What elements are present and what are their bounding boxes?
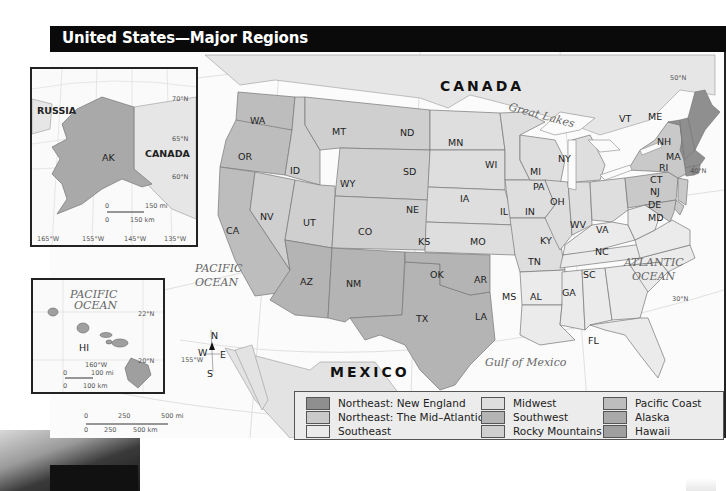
svg-text:65°N: 65°N xyxy=(172,135,189,143)
svg-text:100 mi: 100 mi xyxy=(91,369,114,377)
swatch xyxy=(306,397,330,410)
svg-text:155°W: 155°W xyxy=(82,235,105,243)
legend-item-rocky-mountains: Rocky Mountains xyxy=(481,424,602,438)
state-or[interactable] xyxy=(220,120,292,175)
svg-text:N: N xyxy=(211,330,218,341)
svg-text:135°W: 135°W xyxy=(164,235,187,243)
state-ar[interactable] xyxy=(520,270,565,305)
svg-text:MA: MA xyxy=(666,151,681,162)
svg-text:MO: MO xyxy=(470,236,486,247)
label-mexico: MEXICO xyxy=(330,364,410,380)
svg-text:OK: OK xyxy=(430,269,444,280)
svg-text:WA: WA xyxy=(250,115,266,126)
map-title: United States—Major Regions xyxy=(62,29,308,47)
state-oh[interactable] xyxy=(590,178,628,222)
svg-text:NH: NH xyxy=(657,136,671,147)
label-lat-50: 50°N xyxy=(670,74,687,82)
svg-text:UT: UT xyxy=(303,217,316,228)
legend-item-hawaii: Hawaii xyxy=(603,424,670,438)
state-fl[interactable] xyxy=(590,318,665,378)
svg-text:VA: VA xyxy=(596,224,609,235)
svg-text:CT: CT xyxy=(650,174,663,185)
svg-text:ID: ID xyxy=(290,165,300,176)
state-mt[interactable] xyxy=(305,97,430,150)
svg-text:HI: HI xyxy=(79,342,89,353)
svg-text:0: 0 xyxy=(105,202,109,210)
svg-text:E: E xyxy=(220,349,226,360)
svg-text:S: S xyxy=(207,368,213,379)
label-pacific-2: OCEAN xyxy=(195,276,238,289)
svg-text:MD: MD xyxy=(648,212,664,223)
svg-text:FL: FL xyxy=(588,335,599,346)
svg-text:0: 0 xyxy=(84,426,88,434)
svg-text:OR: OR xyxy=(238,151,252,162)
svg-text:IA: IA xyxy=(460,193,470,204)
svg-text:LA: LA xyxy=(475,311,488,322)
svg-text:AR: AR xyxy=(474,274,487,285)
label-atlantic-2: OCEAN xyxy=(632,270,675,283)
svg-text:CO: CO xyxy=(358,226,372,237)
swatch xyxy=(481,425,505,438)
legend-item-southwest: Southwest xyxy=(481,410,568,424)
svg-text:0: 0 xyxy=(84,412,88,420)
svg-text:NV: NV xyxy=(260,211,274,222)
compass-rose: N W E S 155°W xyxy=(181,330,226,379)
svg-text:150 mi: 150 mi xyxy=(145,202,168,210)
svg-text:AZ: AZ xyxy=(300,276,313,287)
state-me[interactable] xyxy=(688,90,720,150)
svg-text:22°N: 22°N xyxy=(138,310,155,318)
svg-text:WI: WI xyxy=(485,159,497,170)
svg-text:RI: RI xyxy=(659,162,668,173)
main-scale-bar: 0 250 500 mi 0 250 500 km xyxy=(84,412,184,434)
svg-text:NC: NC xyxy=(595,246,609,257)
svg-text:WY: WY xyxy=(340,178,355,189)
svg-text:OH: OH xyxy=(550,196,565,207)
state-nj[interactable] xyxy=(678,178,688,205)
svg-text:NY: NY xyxy=(558,153,571,164)
svg-text:250: 250 xyxy=(118,412,130,420)
label-pacific-1: PACIFIC xyxy=(194,262,243,275)
svg-text:NE: NE xyxy=(406,204,419,215)
photo-fragment xyxy=(686,478,716,491)
legend-item-pacific-coast: Pacific Coast xyxy=(603,396,702,410)
svg-text:20°N: 20°N xyxy=(138,357,155,365)
legend-item-mid-atlantic: Northeast: The Mid–Atlantic xyxy=(306,410,483,424)
swatch xyxy=(603,425,627,438)
svg-text:145°W: 145°W xyxy=(124,235,147,243)
svg-text:150 km: 150 km xyxy=(130,216,155,224)
state-ms[interactable] xyxy=(560,270,585,330)
svg-text:RUSSIA: RUSSIA xyxy=(37,105,77,116)
svg-text:CANADA: CANADA xyxy=(145,148,191,159)
svg-text:ME: ME xyxy=(648,111,662,122)
svg-text:KS: KS xyxy=(418,236,430,247)
svg-text:0: 0 xyxy=(63,369,67,377)
swatch xyxy=(306,411,330,424)
state-nm[interactable] xyxy=(328,248,405,322)
svg-text:MI: MI xyxy=(530,166,541,177)
swatch xyxy=(306,425,330,438)
label-atlantic-1: ATLANTIC xyxy=(623,256,684,269)
svg-text:155°W: 155°W xyxy=(181,356,204,364)
svg-text:NM: NM xyxy=(346,278,361,289)
state-nd[interactable] xyxy=(430,110,505,150)
svg-text:OCEAN: OCEAN xyxy=(74,299,117,312)
svg-text:TX: TX xyxy=(415,313,429,324)
label-lat-30: 30°N xyxy=(672,295,689,303)
svg-text:SD: SD xyxy=(403,166,416,177)
svg-text:70°N: 70°N xyxy=(172,95,189,103)
svg-text:WV: WV xyxy=(570,219,586,230)
swatch xyxy=(603,411,627,424)
state-sd[interactable] xyxy=(428,150,505,190)
svg-text:IN: IN xyxy=(525,206,535,217)
svg-text:CA: CA xyxy=(226,225,240,236)
svg-text:DE: DE xyxy=(648,199,661,210)
svg-text:TN: TN xyxy=(527,256,541,267)
legend-item-southeast: Southeast xyxy=(306,424,391,438)
svg-text:100 km: 100 km xyxy=(83,382,108,390)
label-canada: CANADA xyxy=(440,78,524,94)
svg-text:SC: SC xyxy=(583,269,596,280)
svg-text:AL: AL xyxy=(530,291,542,302)
swatch xyxy=(481,411,505,424)
svg-text:0: 0 xyxy=(63,382,67,390)
svg-text:MS: MS xyxy=(502,291,516,302)
